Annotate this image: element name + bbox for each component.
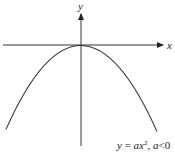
parabola-diagram: x y y = ax2, a<0 [0, 0, 175, 154]
x-axis-label: x [166, 39, 172, 51]
y-axis-label: y [77, 0, 83, 12]
equation-label: y = ax2, a<0 [116, 139, 171, 151]
